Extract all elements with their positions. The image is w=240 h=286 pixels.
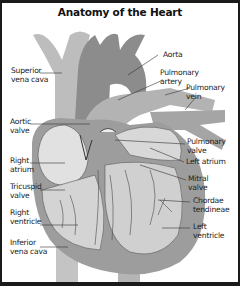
label-right-ventricle: Right ventricle — [10, 208, 41, 226]
label-aortic-valve: Aortic valve — [10, 117, 31, 135]
label-chordae-tendineae: Chordae tendineae — [193, 196, 229, 214]
label-aorta: Aorta — [163, 50, 182, 59]
label-left-ventricle: Left ventricle — [193, 222, 224, 240]
left-ventricle-shape — [105, 162, 182, 254]
label-inferior-vena-cava: Inferior vena cava — [10, 238, 47, 256]
label-tricuspid-valve: Tricuspid valve — [10, 182, 42, 200]
label-right-atrium: Right atrium — [10, 156, 34, 174]
label-left-atrium: Left atrium — [186, 157, 226, 166]
label-superior-vena-cava: Superior vena cava — [11, 66, 48, 84]
label-mitral-valve: Mitral valve — [188, 174, 208, 192]
label-pulmonary-valve: Pulmonary valve — [187, 137, 226, 155]
label-pulmonary-vein: Pulmonary vein — [186, 83, 225, 101]
